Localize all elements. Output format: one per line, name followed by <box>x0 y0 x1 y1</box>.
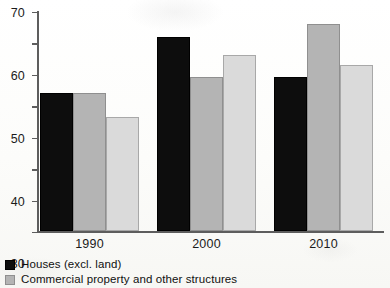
legend-swatch-icon <box>5 275 15 285</box>
x-axis-line <box>37 231 384 233</box>
x-axis-label-1990: 1990 <box>75 238 104 251</box>
legend-item-label: Houses (excl. land) <box>21 259 121 271</box>
bar-2000-series-1 <box>190 77 223 231</box>
chart-legend: Houses (excl. land)Commercial property a… <box>5 257 385 287</box>
y-tick-label: 50 <box>11 132 25 145</box>
y-tick-mark: 0 <box>32 232 37 233</box>
bar-2010-series-0 <box>274 77 307 231</box>
legend-item: Houses (excl. land) <box>5 257 385 272</box>
y-tick-label: 40 <box>11 195 25 208</box>
bar-chart-figure: 010203040506070 199020002010 Houses (exc… <box>0 0 390 288</box>
legend-swatch-icon <box>5 260 15 270</box>
legend-item: Commercial property and other structures <box>5 272 385 287</box>
bar-1990-series-0 <box>40 93 73 231</box>
bar-2010-series-2 <box>340 65 373 232</box>
bar-2010-series-1 <box>307 24 340 231</box>
bars-layer <box>37 11 384 231</box>
bar-1990-series-2 <box>106 117 139 232</box>
bar-1990-series-1 <box>73 93 106 231</box>
y-tick-label: 70 <box>11 7 25 20</box>
y-tick-label: 60 <box>11 69 25 82</box>
bar-2000-series-2 <box>223 55 256 231</box>
plot-area: 010203040506070 <box>37 11 384 233</box>
x-axis-label-2010: 2010 <box>309 238 338 251</box>
legend-item-label: Commercial property and other structures <box>21 274 237 286</box>
bar-2000-series-0 <box>157 37 190 232</box>
x-axis-label-2000: 2000 <box>192 238 221 251</box>
